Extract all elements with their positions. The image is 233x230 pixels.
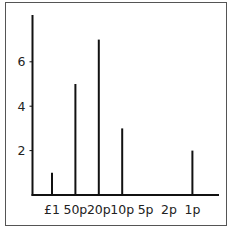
x-tick-label: 10p bbox=[110, 202, 134, 217]
x-tick-label: 1p bbox=[184, 202, 200, 217]
x-tick-label: £1 bbox=[44, 202, 60, 217]
y-tick-label: 6 bbox=[18, 54, 26, 69]
y-tick-label: 4 bbox=[18, 99, 26, 114]
coin-count-chart: 246 £150p20p10p5p2p1p bbox=[0, 0, 233, 230]
x-tick-label: 50p bbox=[63, 202, 87, 217]
y-tick-label: 2 bbox=[18, 143, 26, 158]
x-tick-label: 20p bbox=[87, 202, 111, 217]
x-tick-label: 2p bbox=[161, 202, 177, 217]
x-tick-label: 5p bbox=[138, 202, 154, 217]
